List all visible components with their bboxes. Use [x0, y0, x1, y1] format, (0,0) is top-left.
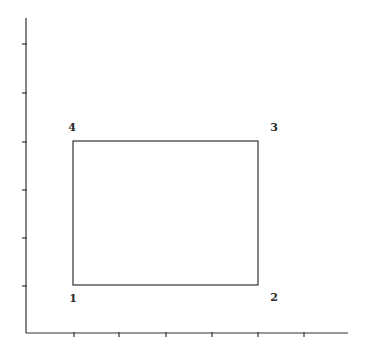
corner-label-3: 3 [270, 122, 278, 133]
axes [22, 18, 348, 337]
corner-label-2: 2 [270, 292, 278, 303]
coordinate-plot [0, 0, 369, 362]
corner-label-4: 4 [68, 122, 76, 133]
corner-label-1: 1 [69, 293, 77, 304]
rectangle [73, 141, 258, 285]
